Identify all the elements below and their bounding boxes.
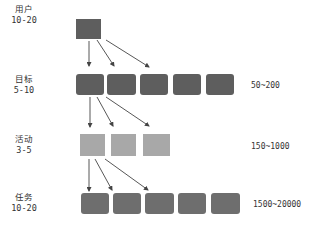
- arrows: [0, 0, 321, 231]
- arrow: [106, 97, 149, 126]
- arrow: [105, 159, 148, 190]
- arrow: [95, 159, 112, 190]
- arrow: [97, 97, 113, 126]
